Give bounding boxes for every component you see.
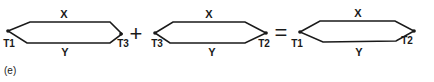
junction-dot-icon bbox=[153, 31, 157, 35]
loop-3-right-junction-label: T2 bbox=[401, 35, 413, 46]
loop-3: X Y T1 T2 bbox=[291, 7, 416, 58]
loop-2-outline bbox=[155, 22, 266, 43]
loop-3-left-junction-label: T1 bbox=[291, 38, 303, 49]
junction-dot-icon bbox=[119, 32, 123, 36]
loop-3-top-label: X bbox=[354, 7, 362, 19]
figure-caption: (e) bbox=[4, 65, 16, 76]
loop-1-left-junction-label: T1 bbox=[3, 38, 15, 49]
junction-dot-icon bbox=[264, 31, 268, 35]
loop-2: X Y T3 T2 bbox=[151, 8, 270, 58]
loop-1-bottom-label: Y bbox=[61, 46, 69, 58]
loop-3-outline bbox=[300, 21, 414, 42]
loop-1: X Y T1 T3 bbox=[3, 8, 129, 58]
junction-dot-icon bbox=[6, 29, 10, 33]
loop-1-outline bbox=[8, 22, 122, 43]
loop-2-bottom-label: Y bbox=[208, 46, 216, 58]
loop-1-right-junction-label: T3 bbox=[117, 38, 129, 49]
loop-3-bottom-label: Y bbox=[355, 46, 363, 58]
loop-2-right-junction-label: T2 bbox=[258, 38, 270, 49]
loop-2-left-junction-label: T3 bbox=[151, 38, 163, 49]
loop-2-top-label: X bbox=[205, 8, 213, 20]
junction-dot-icon bbox=[412, 29, 416, 33]
junction-dot-icon bbox=[298, 30, 302, 34]
loop-1-top-label: X bbox=[60, 8, 68, 20]
equals-operator: = bbox=[275, 20, 288, 45]
plus-operator: + bbox=[130, 21, 143, 46]
thermocouple-equation-diagram: X Y T1 T3 + X Y T3 T2 = X Y T1 T2 (e) bbox=[0, 0, 434, 82]
